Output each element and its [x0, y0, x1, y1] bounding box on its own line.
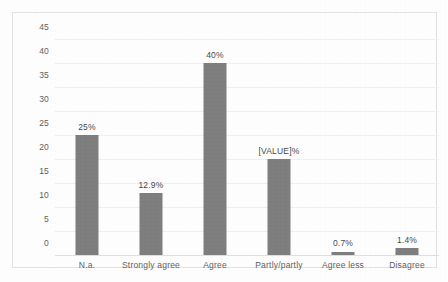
y-axis-tick-45: 45: [25, 23, 49, 32]
bar[interactable]: [268, 159, 291, 255]
y-axis-tick-30: 30: [25, 95, 49, 104]
bar-value-label: 25%: [78, 123, 96, 132]
y-axis-tick-15: 15: [25, 167, 49, 176]
bar-column: 12.9%: [119, 39, 183, 255]
y-axis-tick-10: 10: [25, 191, 49, 200]
bar-column: 1.4%: [375, 39, 439, 255]
bar[interactable]: [396, 248, 419, 255]
bar-chart: 051015202530354045 25%12.9%40%[VALUE]%0.…: [0, 0, 448, 282]
bar-value-label: 0.7%: [333, 239, 353, 248]
bar-value-label: 1.4%: [397, 236, 417, 245]
bar-value-label: 12.9%: [138, 181, 163, 190]
y-axis-tick-20: 20: [25, 143, 49, 152]
bar-column: [VALUE]%: [247, 39, 311, 255]
bar[interactable]: [332, 252, 355, 255]
bar[interactable]: [140, 193, 163, 255]
plot-area: 25%12.9%40%[VALUE]%0.7%1.4%: [55, 39, 439, 255]
bar-column: 40%: [183, 39, 247, 255]
bar-value-label: [VALUE]%: [258, 147, 299, 156]
x-axis-label: Disagree: [375, 261, 439, 277]
gridline: [55, 255, 439, 256]
bar-column: 0.7%: [311, 39, 375, 255]
x-axis-label: Strongly agree: [119, 261, 183, 277]
x-axis-category-labels: N.a.Strongly agreeAgreePartly/partlyAgre…: [55, 261, 439, 277]
x-axis-label: Partly/partly: [247, 261, 311, 277]
y-axis-tick-5: 5: [25, 215, 49, 224]
bar-value-label: 40%: [206, 51, 224, 60]
y-axis-tick-35: 35: [25, 71, 49, 80]
bar-series: 25%12.9%40%[VALUE]%0.7%1.4%: [55, 39, 439, 255]
chart-frame: 051015202530354045 25%12.9%40%[VALUE]%0.…: [12, 12, 437, 268]
y-axis-tick-25: 25: [25, 119, 49, 128]
bar-column: 25%: [55, 39, 119, 255]
x-axis-label: Agree: [183, 261, 247, 277]
bar[interactable]: [76, 135, 99, 255]
bar[interactable]: [204, 63, 227, 255]
x-axis-label: Agree less: [311, 261, 375, 277]
y-axis-tick-40: 40: [25, 47, 49, 56]
y-axis-tick-0: 0: [25, 239, 49, 248]
x-axis-label: N.a.: [55, 261, 119, 277]
